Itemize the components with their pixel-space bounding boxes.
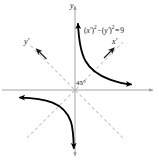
y-prime-axis-label: y′ [24,38,29,46]
hyperbola-branch-lower-left [20,98,74,148]
equation-equals-operator: = [114,26,119,35]
y-axis-label: y [70,2,74,10]
hyperbola-figure: y x′ y′ 45° (x′)2−(y′)2=9 [0,0,159,162]
rotation-angle-label: 45° [76,80,86,87]
y-prime-asymptote-line [30,45,123,138]
x-prime-axis-label: x′ [112,38,117,46]
equation-value: 9 [120,26,125,35]
hyperbola-equation-label: (x′)2−(y′)2=9 [84,25,124,34]
